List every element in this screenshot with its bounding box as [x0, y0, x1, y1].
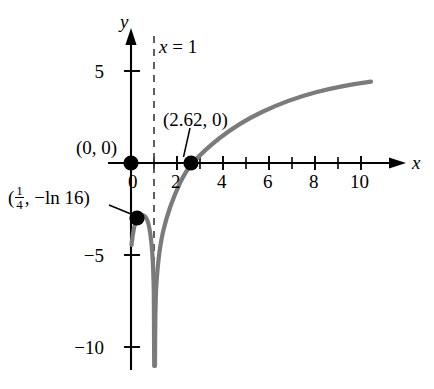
- x-intercept-leader-line: [184, 128, 191, 157]
- local-max-label-open: (: [8, 187, 14, 208]
- y-tick-label-minus10: −10: [74, 338, 104, 357]
- point-origin: [123, 155, 138, 170]
- local-max-label-rest: , −ln 16): [25, 187, 90, 208]
- x-axis-arrow: [389, 157, 406, 168]
- x-tick-label-2: 2: [171, 172, 181, 191]
- local-max-leader-line: [109, 205, 131, 214]
- fraction-numerator: 1: [15, 184, 24, 198]
- local-max-label: (14, −ln 16): [8, 184, 90, 212]
- x-axis-label: x: [412, 153, 420, 172]
- origin-point-label: (0, 0): [76, 138, 117, 157]
- graph-figure: y x 5 −5 −10 0 2 4 6 8 10 x = 1 (0, 0) (…: [0, 0, 434, 389]
- x-tick-label-4: 4: [217, 172, 227, 191]
- y-tick-label-minus5: −5: [84, 246, 104, 265]
- y-tick-label-5: 5: [95, 62, 105, 81]
- point-x-intercept: [183, 155, 198, 170]
- point-local-max: [129, 210, 144, 225]
- fraction-denominator: 4: [15, 198, 24, 211]
- one-quarter-fraction: 14: [15, 184, 24, 212]
- x-tick-label-6: 6: [263, 172, 273, 191]
- x-intercept-label: (2.62, 0): [163, 110, 228, 129]
- x-tick-label-0: 0: [128, 172, 138, 191]
- y-axis: [125, 28, 136, 370]
- x-tick-label-10: 10: [350, 172, 369, 191]
- asymptote-label: x = 1: [159, 37, 197, 56]
- asymptote-label-value: = 1: [167, 36, 197, 57]
- curve-left-branch: [132, 215, 155, 366]
- x-tick-label-8: 8: [309, 172, 319, 191]
- y-axis-label: y: [120, 12, 128, 31]
